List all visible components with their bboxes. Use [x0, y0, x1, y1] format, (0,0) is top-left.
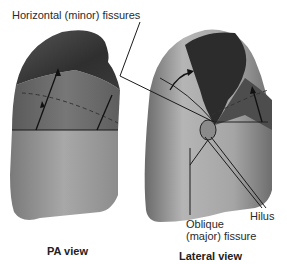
horizontal-fissures-label: Horizontal (minor) fissures [12, 9, 140, 21]
lateral-view-title: Lateral view [179, 250, 242, 262]
pa-view-title: PA view [47, 245, 88, 257]
oblique-label-line1: Oblique [186, 218, 224, 230]
pa-lower-lobe [10, 130, 118, 220]
pa-view-lung [10, 30, 120, 220]
leader-horizontal-to-pa [120, 22, 140, 76]
hilus-circle [200, 120, 216, 140]
hilus-label: Hilus [250, 210, 274, 222]
lateral-view-lung [145, 30, 272, 222]
oblique-label-line2: (major) fissure [186, 230, 256, 242]
lung-fissures-diagram [0, 0, 287, 264]
